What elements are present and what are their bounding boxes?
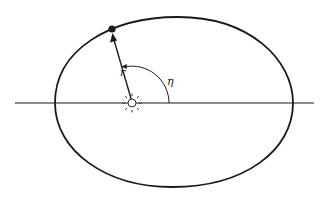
orbit-ellipse (55, 17, 293, 187)
radius-label: r (120, 66, 126, 79)
orbit-diagram: r η (0, 0, 324, 199)
radius-arrowhead (110, 33, 117, 43)
planet-dot (108, 25, 115, 32)
angle-label: η (167, 75, 174, 88)
